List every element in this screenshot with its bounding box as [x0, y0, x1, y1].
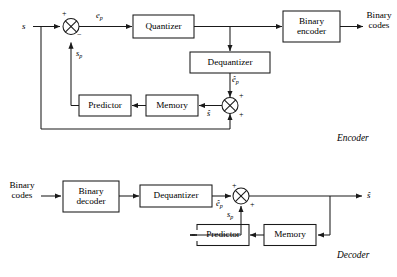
- decoder-memory-label: Memory: [264, 225, 316, 246]
- encoder-predictor-label: Predictor: [79, 95, 131, 116]
- decoder-section-label: Decoder: [337, 250, 369, 260]
- encoder-summer-2-plus-top: +: [239, 91, 244, 100]
- decoder-prediction-label: sp: [227, 210, 233, 220]
- encoder-memory-label: Memory: [146, 95, 198, 116]
- encoder-summer-1-minus: −: [77, 30, 82, 39]
- encoder-input-label: s: [22, 21, 26, 31]
- encoder-summer-1-plus: +: [62, 9, 67, 18]
- encoder-binary-encoder-line2: encoder: [297, 27, 326, 36]
- decoder-predictor-label: Predictor: [197, 225, 249, 246]
- encoder-error-label: ep: [96, 11, 103, 21]
- decoder-dequantizer-label: Dequantizer: [140, 185, 212, 207]
- encoder-summer-2-plus-bottom: +: [239, 110, 244, 119]
- decoder-binary-decoder-line2: decoder: [76, 197, 105, 206]
- decoder-output-label: ŝ: [367, 190, 371, 200]
- decoder-input-label: Binary codes: [3, 181, 41, 200]
- encoder-quantizer-label: Quantizer: [133, 15, 194, 38]
- encoder-section-label: Encoder: [337, 133, 369, 143]
- encoder-prediction-label: sp: [76, 49, 82, 59]
- encoder-dequantizer-label: Dequantizer: [190, 52, 270, 73]
- encoder-reconstructed-label: ŝ: [207, 109, 210, 118]
- decoder-dequantized-error-label: êp: [216, 199, 223, 209]
- encoder-binary-encoder-label: Binary encoder: [283, 11, 340, 42]
- decoder-summer-plus-bottom: +: [250, 200, 255, 209]
- encoder-dequantized-error-label: êp: [232, 75, 239, 85]
- decoder-summer-plus-top: +: [232, 181, 237, 190]
- decoder-binary-decoder-label: Binary decoder: [63, 181, 119, 212]
- encoder-output-label: Binary codes: [361, 11, 397, 30]
